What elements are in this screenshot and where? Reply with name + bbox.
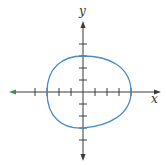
x-axis <box>9 88 161 96</box>
y-axis-label: y <box>79 5 86 17</box>
y-axis <box>79 21 87 161</box>
x-axis-left-arrow-icon <box>9 90 16 95</box>
coordinate-plane <box>0 0 166 165</box>
y-axis-bottom-arrow-icon <box>81 154 86 161</box>
x-axis-label: x <box>151 93 158 105</box>
y-axis-top-arrow-icon <box>81 21 86 28</box>
